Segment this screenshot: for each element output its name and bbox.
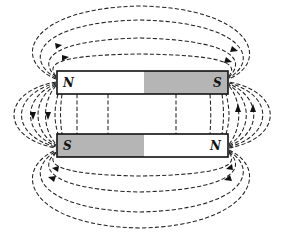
right-side-loops <box>226 82 270 148</box>
arrow-left-icon <box>48 176 56 182</box>
bottom-magnet-right-pole-label: N <box>210 140 221 152</box>
left-side-arrows <box>30 112 51 120</box>
arrow-right-icon <box>62 55 69 61</box>
magnet-field-diagram: N S S N <box>0 0 282 234</box>
arrow-left-icon <box>52 166 59 172</box>
bottom-magnet <box>57 134 228 157</box>
arrow-up-icon <box>250 104 256 112</box>
left-side-loops <box>14 82 58 148</box>
arrow-right-icon <box>230 46 238 52</box>
arrow-right-icon <box>224 57 232 63</box>
bottom-magnet-left-pole-label: S <box>63 140 72 152</box>
arrow-up-icon <box>235 104 241 112</box>
inner-field-lines <box>61 94 224 134</box>
top-magnet <box>57 71 228 94</box>
bottom-loop-arrows <box>48 164 233 182</box>
bottom-field-loops <box>32 150 249 228</box>
arrow-right-icon <box>55 43 62 49</box>
top-field-loops <box>32 6 249 79</box>
top-magnet-right-pole-label: S <box>213 77 222 89</box>
top-magnet-left-pole-label: N <box>63 77 74 89</box>
